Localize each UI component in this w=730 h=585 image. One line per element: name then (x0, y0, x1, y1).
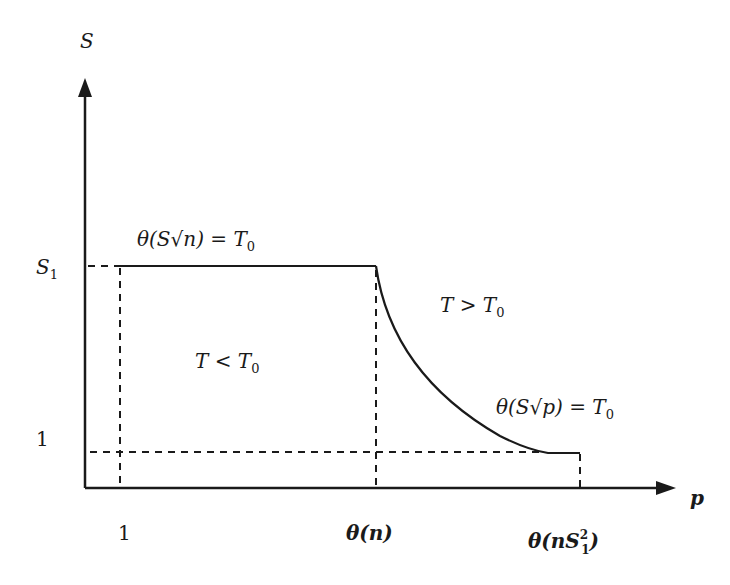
x-axis-arrowhead (656, 481, 676, 495)
annotation-upper-boundary: θ(S√n) = T0 (137, 227, 255, 254)
x-tick-theta-ns1: θ(nS21) (528, 528, 599, 557)
y-axis-arrowhead (78, 78, 92, 97)
annotation-region-above: T > T0 (440, 293, 504, 320)
annotation-curve-boundary: θ(S√p) = T0 (496, 395, 614, 422)
x-axis-label: p (690, 486, 704, 510)
y-axis-label: S (80, 29, 94, 53)
x-tick-theta-n: θ(n) (346, 521, 393, 545)
x-tick-one: 1 (118, 521, 131, 545)
y-tick-one: 1 (36, 427, 49, 451)
diagram-canvas: S p S1 1 1 θ(n) θ(nS21) θ(S√n) = T0 T < … (0, 0, 730, 585)
annotation-region-below: T < T0 (195, 349, 259, 376)
y-tick-s1: S1 (36, 255, 58, 282)
